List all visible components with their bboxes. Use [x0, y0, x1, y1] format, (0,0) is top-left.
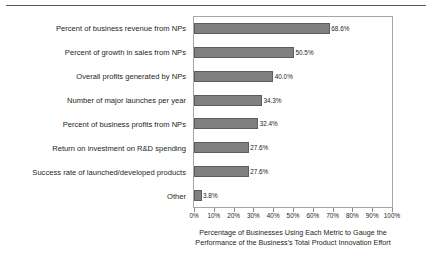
bar — [194, 190, 202, 201]
y-axis-category-label: Other — [167, 192, 186, 201]
bar-value-label: 40.0% — [275, 73, 293, 80]
y-axis-category-row: Other — [0, 184, 190, 208]
x-axis-tick-label: 0% — [189, 212, 198, 220]
x-axis-tick — [253, 208, 254, 212]
x-axis-tick — [273, 208, 274, 212]
bar — [194, 71, 273, 82]
y-axis-category-label: Percent of business profits from NPs — [63, 120, 186, 129]
bar-value-label: 32.4% — [260, 120, 278, 127]
x-axis-tick — [333, 208, 334, 212]
y-axis-category-label: Success rate of launched/developed produ… — [32, 168, 186, 177]
bar-value-label: 27.6% — [250, 168, 268, 175]
x-axis-tick-label: 50% — [287, 212, 300, 220]
x-axis-tick — [372, 208, 373, 212]
x-axis-tick — [234, 208, 235, 212]
x-axis-tick-label: 60% — [306, 212, 319, 220]
y-axis-category-label: Percent of business revenue from NPs — [56, 24, 186, 33]
y-axis-category-row: Percent of business revenue from NPs — [0, 16, 190, 40]
bar-row: 3.8% — [194, 183, 392, 207]
x-axis-tick — [293, 208, 294, 212]
x-axis-tick-label: 100% — [384, 212, 400, 220]
bar-row: 34.3% — [194, 88, 392, 112]
x-axis-tick — [352, 208, 353, 212]
bar — [194, 47, 294, 58]
y-axis-category-label: Return on investment on R&D spending — [52, 144, 186, 153]
x-axis-tick-labels: 0%10%20%30%40%50%60%70%80%90%100% — [193, 212, 393, 222]
bar-row: 32.4% — [194, 112, 392, 136]
x-axis-tick-label: 90% — [366, 212, 379, 220]
bar-row: 27.6% — [194, 160, 392, 184]
y-axis-category-row: Percent of business profits from NPs — [0, 112, 190, 136]
bar-row: 40.0% — [194, 65, 392, 89]
bar — [194, 118, 258, 129]
bar — [194, 166, 249, 177]
x-axis-title: Percentage of Businesses Using Each Metr… — [193, 228, 393, 248]
x-axis-tick-label: 20% — [227, 212, 240, 220]
x-axis-tick-label: 40% — [267, 212, 280, 220]
y-axis-category-row: Percent of growth in sales from NPs — [0, 40, 190, 64]
y-axis-category-labels: Percent of business revenue from NPsPerc… — [0, 16, 190, 208]
y-axis-category-label: Number of major launches per year — [67, 96, 186, 105]
bar-value-label: 50.5% — [295, 49, 313, 56]
x-axis-tick-label: 70% — [326, 212, 339, 220]
y-axis-category-row: Return on investment on R&D spending — [0, 136, 190, 160]
x-axis-tick — [214, 208, 215, 212]
x-axis-tick-label: 80% — [346, 212, 359, 220]
bar — [194, 23, 330, 34]
bar-value-label: 68.6% — [331, 25, 349, 32]
y-axis-category-row: Overall profits generated by NPs — [0, 64, 190, 88]
bar — [194, 95, 262, 106]
x-axis-title-line: Performance of the Business's Total Prod… — [193, 238, 393, 248]
x-axis-title-line: Percentage of Businesses Using Each Metr… — [193, 228, 393, 238]
bar-row: 68.6% — [194, 17, 392, 41]
header-divider — [6, 5, 426, 6]
x-axis-tick — [313, 208, 314, 212]
bar-series: 68.6%50.5%40.0%34.3%32.4%27.6%27.6%3.8% — [194, 17, 392, 207]
x-axis-tick-label: 30% — [247, 212, 260, 220]
bar-value-label: 34.3% — [263, 97, 281, 104]
y-axis-category-row: Success rate of launched/developed produ… — [0, 160, 190, 184]
x-axis-tick — [194, 208, 195, 212]
x-axis-tick — [392, 208, 393, 212]
y-axis-category-label: Percent of growth in sales from NPs — [65, 48, 186, 57]
chart-figure: Percent of business revenue from NPsPerc… — [0, 0, 432, 261]
y-axis-category-label: Overall profits generated by NPs — [76, 72, 186, 81]
bar-value-label: 3.8% — [203, 192, 218, 199]
bar-row: 50.5% — [194, 41, 392, 65]
x-axis-tick-label: 10% — [207, 212, 220, 220]
bar-row: 27.6% — [194, 136, 392, 160]
y-axis-category-row: Number of major launches per year — [0, 88, 190, 112]
bar — [194, 142, 249, 153]
bar-value-label: 27.6% — [250, 144, 268, 151]
